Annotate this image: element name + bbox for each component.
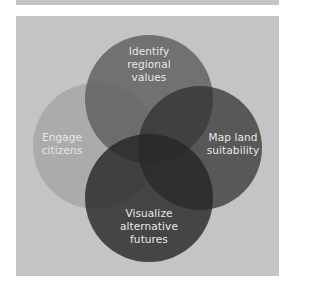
label-map-land-suitability: Map land suitability (207, 131, 259, 157)
label-line: suitability (207, 144, 259, 157)
label-identify-regional-values: Identify regional values (127, 45, 170, 84)
label-line: citizens (42, 144, 83, 157)
label-line: Map land (207, 131, 259, 144)
label-engage-citizens: Engage citizens (42, 131, 83, 157)
label-line: Visualize (120, 207, 178, 220)
label-line: Engage (42, 131, 83, 144)
label-line: regional (127, 58, 170, 71)
label-line: futures (120, 233, 178, 246)
label-line: alternative (120, 220, 178, 233)
label-visualize-alternative-futures: Visualize alternative futures (120, 207, 178, 246)
label-line: Identify (127, 45, 170, 58)
label-line: values (127, 71, 170, 84)
